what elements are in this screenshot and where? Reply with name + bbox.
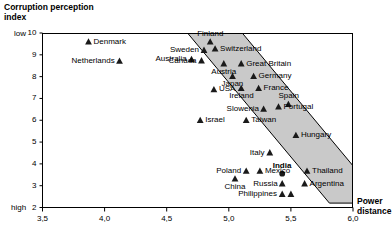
data-point-marker	[197, 117, 204, 123]
data-point-label: Germany	[259, 71, 292, 80]
x-tick-label: 5,5	[271, 214, 311, 223]
x-tick-label: 6,0	[333, 214, 373, 223]
y-tick-label: 10	[9, 28, 37, 37]
data-point-label: Hungary	[301, 130, 331, 139]
plot-surface	[0, 0, 392, 241]
data-point-label: Netherlands	[72, 56, 115, 65]
data-point-label: Poland	[216, 166, 241, 175]
y-tick-label: 2	[9, 203, 37, 212]
y-tick-label: 6	[9, 115, 37, 124]
data-point-label: Ireland	[229, 91, 253, 100]
data-point-label: Portugal	[284, 102, 314, 111]
data-point-label: Great Britain	[246, 59, 291, 68]
data-point-marker	[279, 180, 286, 186]
data-point-label: Russia	[253, 179, 277, 188]
data-point-label: Philippines	[238, 189, 277, 198]
data-point-label: India	[273, 161, 292, 170]
data-point-marker	[243, 117, 250, 123]
data-point-label: Denmark	[94, 37, 126, 46]
data-point-marker	[257, 168, 264, 174]
data-point-label: Canada	[169, 56, 197, 65]
data-point-marker	[211, 86, 218, 92]
data-point-label: Thailand	[312, 166, 343, 175]
data-point-marker	[279, 191, 286, 197]
y-tick-label: 9	[9, 50, 37, 59]
data-point-marker	[243, 168, 250, 174]
data-point-marker	[232, 175, 239, 181]
x-tick-label: 3,5	[23, 214, 63, 223]
data-point-label: Austria	[211, 67, 236, 76]
data-point-marker	[288, 191, 295, 197]
data-point-marker	[266, 149, 273, 155]
data-point-label: Taiwan	[251, 115, 276, 124]
data-point-label: Argentina	[310, 179, 344, 188]
corruption-power-distance-scatter-chart: Corruption perception index Power distan…	[0, 0, 392, 241]
data-point-marker	[198, 57, 205, 63]
x-tick-label: 4,5	[147, 214, 187, 223]
x-tick-label: 5,0	[209, 214, 249, 223]
x-tick-label: 4,0	[85, 214, 125, 223]
data-point-marker	[85, 38, 92, 44]
y-tick-label: 3	[9, 181, 37, 190]
data-point-label: Slowenia	[227, 104, 259, 113]
y-tick-label: 7	[9, 93, 37, 102]
data-point-label: Sweden	[170, 45, 199, 54]
y-tick-label: 8	[9, 72, 37, 81]
data-point-label: Spain	[278, 91, 298, 100]
data-point-label: Italy	[250, 148, 265, 157]
data-point-marker	[116, 58, 123, 64]
data-point-marker	[301, 180, 308, 186]
data-point-label: Israel	[205, 115, 225, 124]
y-tick-label: 5	[9, 137, 37, 146]
data-point-label: Switzerland	[220, 44, 261, 53]
data-point-label: Finland	[197, 29, 223, 38]
y-tick-label: 4	[9, 159, 37, 168]
